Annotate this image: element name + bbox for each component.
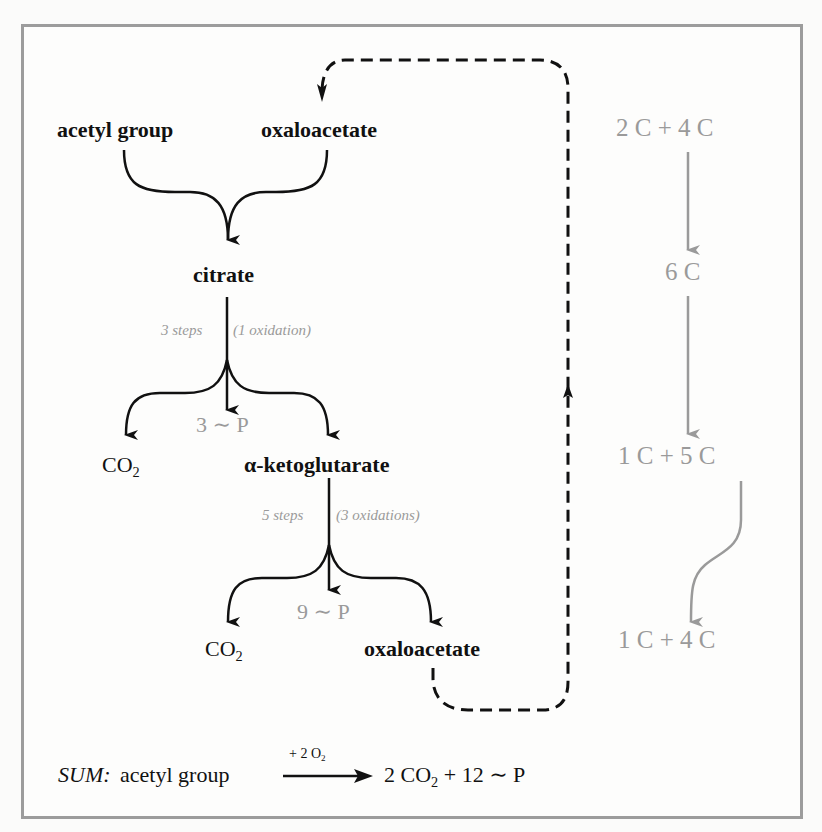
sum-product: 2 CO2 + 12 ∼ P [384, 762, 525, 788]
second-oxidation-note: (3 oxidations) [336, 507, 420, 524]
alpha-ketoglutarate-label: α-ketoglutarate [244, 452, 389, 478]
regeneration-loop-dashed [322, 60, 568, 710]
second-energy-yield: 9 ∼ P [297, 599, 350, 625]
carbon-count-arrows [688, 152, 741, 622]
sum-arrow-label: + 2 O2 [289, 746, 326, 762]
carbon-count-6c: 6 C [665, 258, 700, 286]
citrate-label: citrate [193, 262, 254, 288]
oxaloacetate-bottom-label: oxaloacetate [364, 636, 480, 662]
first-energy-yield: 3 ∼ P [196, 412, 249, 438]
oxaloacetate-top-label: oxaloacetate [261, 117, 377, 143]
first-steps-note: 3 steps [161, 322, 202, 339]
first-oxidation-note: (1 oxidation) [233, 322, 311, 339]
sum-equation: SUM: acetyl group [58, 762, 229, 788]
co2-first-label: CO2 [102, 452, 140, 478]
acetyl-group-label: acetyl group [57, 117, 173, 143]
second-steps-note: 5 steps [262, 507, 303, 524]
sum-reaction-arrow [283, 769, 373, 783]
sum-label: SUM: [58, 762, 111, 787]
co2-second-label: CO2 [205, 636, 243, 662]
carbon-count-1c-5c: 1 C + 5 C [618, 442, 715, 470]
merge-to-citrate-arrow [124, 150, 327, 240]
sum-reactant: acetyl group [120, 762, 229, 787]
carbon-count-2c-4c: 2 C + 4 C [616, 114, 713, 142]
carbon-count-1c-4c: 1 C + 4 C [618, 626, 715, 654]
